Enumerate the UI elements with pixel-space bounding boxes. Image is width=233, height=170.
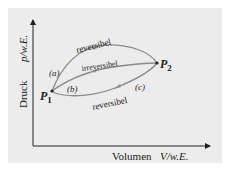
y-axis-label: Druck: [17, 80, 29, 108]
path-b-label: irreversibel: [81, 59, 119, 73]
x-axis-label: Volumen: [112, 150, 152, 162]
point-p2-dot: [155, 61, 158, 64]
path-a-label: reversibel: [75, 37, 112, 55]
x-axis-unit: V/w.E.: [160, 150, 189, 162]
y-axis-unit: p/w.E.: [17, 35, 29, 63]
pv-diagram: P1 P2 (a) (b) (c) reversibel irreversibe…: [0, 0, 233, 170]
path-b-tag: (b): [67, 84, 78, 94]
point-p1-dot: [50, 89, 53, 92]
path-a-tag: (a): [49, 68, 60, 78]
path-c-arrow-icon: [114, 84, 121, 89]
path-c-label: reversibel: [91, 95, 128, 112]
path-c-tag: (c): [135, 82, 145, 92]
point-p2-label: P2: [160, 57, 172, 73]
